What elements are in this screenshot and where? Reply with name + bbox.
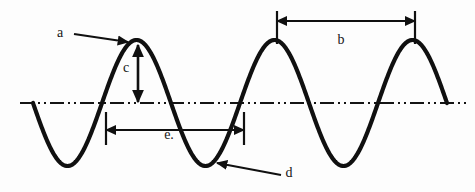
label-c: c	[123, 60, 129, 75]
label-e: e.	[164, 127, 174, 142]
wave-anatomy-diagram: a c b e. d	[0, 0, 475, 192]
label-d: d	[286, 165, 293, 180]
label-d-leader-arrow	[217, 163, 281, 175]
label-a: a	[57, 25, 64, 40]
label-b: b	[338, 32, 345, 47]
diagram-canvas: a c b e. d	[0, 0, 475, 192]
label-a-leader-arrow	[74, 34, 128, 42]
